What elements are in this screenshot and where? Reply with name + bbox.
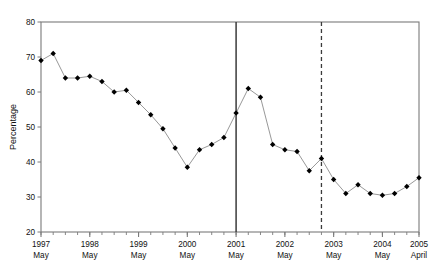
data-point-marker [233, 110, 238, 115]
x-tick-label-month: May [131, 251, 147, 260]
data-point-marker [282, 147, 287, 152]
x-tick-label-month: May [180, 251, 196, 260]
data-point-marker [87, 74, 92, 79]
chart-figure: 20304050607080 Percentage 1997May1998May… [0, 0, 436, 270]
data-point-marker [75, 75, 80, 80]
data-point-marker [380, 193, 385, 198]
x-tick-label-month: May [82, 251, 98, 260]
data-point-marker [209, 142, 214, 147]
data-series [38, 51, 421, 198]
y-axis: 20304050607080 [26, 18, 41, 237]
plot-border [41, 22, 419, 232]
x-tick-label-year: 2001 [227, 240, 246, 249]
data-point-marker [270, 142, 275, 147]
plot-frame [41, 22, 419, 232]
y-axis-title: Percentage [8, 104, 18, 150]
reference-lines [236, 22, 321, 232]
x-tick-label-month: April [411, 251, 428, 260]
x-tick-label-year: 2004 [373, 240, 392, 249]
line-chart-plot: 20304050607080 Percentage 1997May1998May… [0, 0, 436, 270]
x-tick-label-month: May [33, 251, 49, 260]
x-tick-label-month: May [375, 251, 391, 260]
data-point-marker [197, 147, 202, 152]
x-tick-label-year: 2005 [410, 240, 429, 249]
y-tick-label: 20 [26, 228, 36, 237]
data-point-marker [38, 58, 43, 63]
y-tick-label: 40 [26, 158, 36, 167]
x-tick-label-year: 2003 [325, 240, 344, 249]
data-point-marker [50, 51, 55, 56]
x-axis: 1997May1998May1999May2000May2001May2002M… [32, 232, 429, 260]
data-point-marker [185, 165, 190, 170]
data-point-marker [392, 191, 397, 196]
y-tick-label: 80 [26, 18, 36, 27]
x-tick-label-month: May [277, 251, 293, 260]
data-point-marker [221, 135, 226, 140]
y-tick-label: 50 [26, 123, 36, 132]
series-line [41, 54, 419, 196]
data-point-marker [172, 145, 177, 150]
x-tick-label-month: May [228, 251, 244, 260]
x-tick-label-year: 1998 [81, 240, 100, 249]
data-point-marker [63, 75, 68, 80]
y-tick-label: 70 [26, 53, 36, 62]
x-tick-label-year: 2000 [178, 240, 197, 249]
x-tick-label-month: May [326, 251, 342, 260]
x-tick-label-year: 1997 [32, 240, 51, 249]
y-tick-label: 60 [26, 88, 36, 97]
x-tick-label-year: 1999 [129, 240, 148, 249]
data-point-marker [294, 149, 299, 154]
y-tick-label: 30 [26, 193, 36, 202]
x-tick-label-year: 2002 [276, 240, 295, 249]
